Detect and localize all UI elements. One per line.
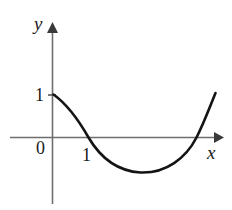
quadratic-curve — [54, 93, 216, 173]
y-axis-tick-label-1: 1 — [35, 86, 44, 104]
math-figure-graph: y x 1 0 1 — [0, 0, 232, 210]
x-axis-label: x — [207, 143, 215, 162]
arrow-right-icon — [214, 132, 224, 143]
x-axis-tick-label-1: 1 — [82, 146, 91, 164]
arrow-up-icon — [47, 22, 58, 33]
origin-label: 0 — [36, 139, 45, 157]
y-axis-label: y — [34, 14, 42, 33]
